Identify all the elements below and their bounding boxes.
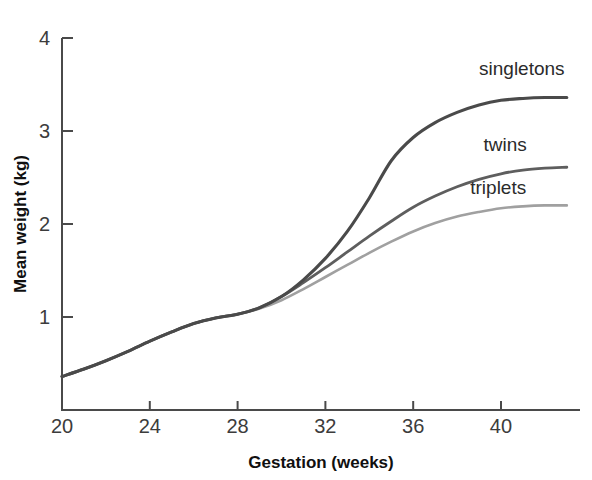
y-tick-label-2: 2 <box>39 213 50 235</box>
x-tick-group: 202428323640 <box>51 401 512 437</box>
x-tick-label-32: 32 <box>314 415 336 437</box>
x-tick-label-24: 24 <box>139 415 161 437</box>
axes-group <box>62 38 580 410</box>
axis-lines <box>62 38 580 410</box>
chart-figure: 202428323640 1234 Gestation (weeks) Mean… <box>0 0 592 480</box>
cropped-caption-fragment <box>60 0 530 2</box>
y-axis-title: Mean weight (kg) <box>11 155 30 293</box>
series-label-triplets: triplets <box>470 177 526 198</box>
x-tick-label-20: 20 <box>51 415 73 437</box>
y-tick-label-4: 4 <box>39 27 50 49</box>
line-chart-canvas: 202428323640 1234 Gestation (weeks) Mean… <box>0 0 592 480</box>
x-tick-label-36: 36 <box>402 415 424 437</box>
series-line-triplets <box>62 205 567 376</box>
series-label-singletons: singletons <box>479 58 565 79</box>
y-tick-group: 1234 <box>39 27 73 328</box>
x-tick-label-28: 28 <box>226 415 248 437</box>
series-label-group: singletonstwinstriplets <box>470 58 564 198</box>
y-tick-label-1: 1 <box>39 306 50 328</box>
series-label-twins: twins <box>483 134 526 155</box>
y-tick-label-3: 3 <box>39 120 50 142</box>
x-tick-label-40: 40 <box>490 415 512 437</box>
x-axis-title: Gestation (weeks) <box>248 453 394 472</box>
